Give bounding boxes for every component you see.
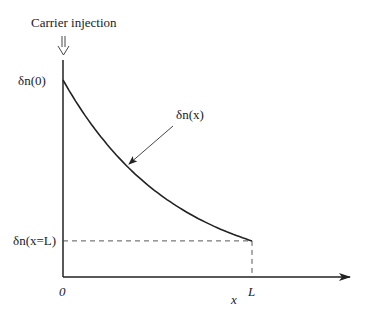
label-delta-n0: δn(0) <box>18 73 46 88</box>
injection-arrow-icon <box>58 36 69 55</box>
curve-delta-n <box>63 80 252 241</box>
label-delta-nL: δn(x=L) <box>13 233 56 248</box>
tick-L: L <box>247 284 255 299</box>
diagram: Carrier injection δn(0) δn(x=L) δn(x) 0 … <box>0 0 375 319</box>
x-axis-label: x <box>230 292 237 307</box>
label-curve: δn(x) <box>176 107 204 122</box>
tick-origin: 0 <box>59 284 66 299</box>
curve-pointer-arrow <box>129 126 173 164</box>
carrier-injection-title: Carrier injection <box>31 15 117 30</box>
